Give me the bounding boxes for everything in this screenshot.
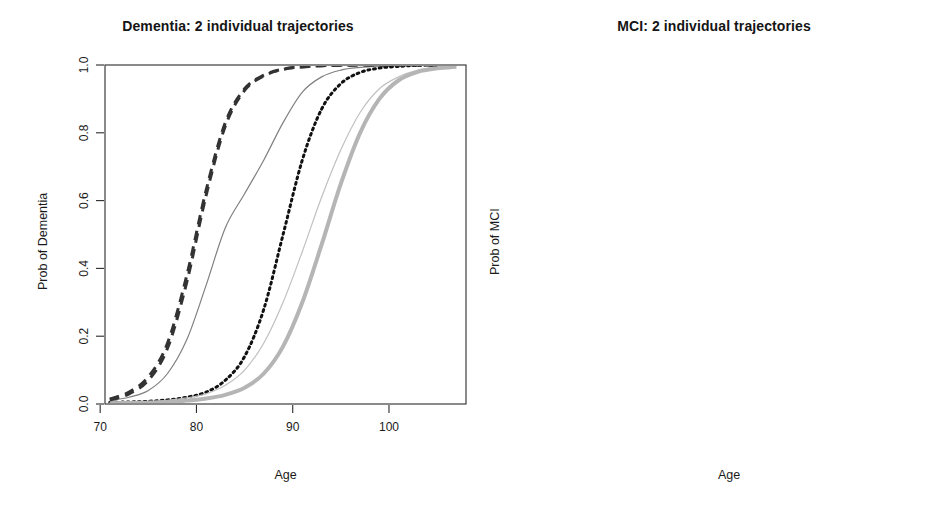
svg-text:70: 70 xyxy=(94,420,108,434)
panel-dementia: Dementia: 2 individual trajectories 7080… xyxy=(0,0,476,510)
axis-title-x-mci: Age xyxy=(548,468,910,482)
panel-mci: MCI: 2 individual trajectories Age Prob … xyxy=(476,0,952,510)
svg-text:90: 90 xyxy=(286,420,300,434)
svg-text:80: 80 xyxy=(190,420,204,434)
curves-dementia xyxy=(110,65,457,403)
axis-title-y-mci: Prob of MCI xyxy=(488,208,502,275)
svg-text:1.0: 1.0 xyxy=(77,56,91,73)
plot-mci xyxy=(476,0,952,510)
plot-dementia: 7080901000.00.20.40.60.81.0 xyxy=(0,0,476,510)
axis-title-y-dementia: Prob of Dementia xyxy=(36,193,50,290)
series-curve xyxy=(110,65,457,402)
svg-text:100: 100 xyxy=(379,420,399,434)
axis-title-x-dementia: Age xyxy=(105,468,466,482)
figure-root: Dementia: 2 individual trajectories 7080… xyxy=(0,0,952,510)
svg-text:0.8: 0.8 xyxy=(77,124,91,141)
svg-text:0.0: 0.0 xyxy=(77,395,91,412)
svg-text:0.2: 0.2 xyxy=(77,328,91,345)
svg-text:0.6: 0.6 xyxy=(77,192,91,209)
svg-text:0.4: 0.4 xyxy=(77,260,91,277)
axes-dementia: 7080901000.00.20.40.60.81.0 xyxy=(77,56,466,434)
